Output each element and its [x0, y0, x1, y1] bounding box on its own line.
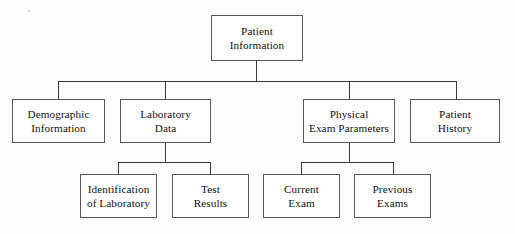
node-label-laboratory-data: Laboratory Data: [138, 107, 193, 135]
node-label-identification-of-laboratory: Identification of Laboratory: [85, 182, 152, 210]
node-label-patient-history: Patient History: [436, 107, 474, 135]
node-demographic-information[interactable]: Demographic Information: [12, 99, 105, 143]
node-current-exam[interactable]: Current Exam: [263, 174, 340, 218]
edge-drop-laboratory-data: [165, 81, 166, 99]
node-physical-exam-parameters[interactable]: Physical Exam Parameters: [303, 99, 395, 143]
node-label-physical-exam-parameters: Physical Exam Parameters: [307, 107, 391, 135]
edge-drop-test-results: [210, 162, 211, 174]
edge-drop-physical-exam-parameters: [349, 81, 350, 99]
scan-speck: [28, 10, 30, 12]
node-label-demographic-information: Demographic Information: [26, 107, 92, 135]
node-patient-information[interactable]: Patient Information: [211, 15, 303, 61]
edge-drop-identification-of-laboratory: [118, 162, 119, 174]
edge-physical-exam-parameters-bus: [301, 162, 394, 163]
edge-root-drop: [256, 61, 257, 82]
node-label-previous-exams: Previous Exams: [371, 182, 415, 210]
node-label-current-exam: Current Exam: [282, 182, 321, 210]
node-patient-history[interactable]: Patient History: [410, 99, 500, 143]
node-identification-of-laboratory[interactable]: Identification of Laboratory: [80, 174, 157, 218]
node-previous-exams[interactable]: Previous Exams: [354, 174, 431, 218]
node-label-test-results: Test Results: [192, 182, 230, 210]
edge-laboratory-data-drop: [165, 143, 166, 162]
edge-drop-previous-exams: [393, 162, 394, 174]
node-test-results[interactable]: Test Results: [172, 174, 249, 218]
edge-drop-patient-history: [456, 81, 457, 99]
edge-main-bus: [58, 81, 457, 82]
node-label-patient-information: Patient Information: [228, 24, 287, 52]
edge-physical-exam-parameters-drop: [349, 143, 350, 162]
edge-drop-current-exam: [301, 162, 302, 174]
node-laboratory-data[interactable]: Laboratory Data: [120, 99, 211, 143]
diagram-canvas: Patient Information Demographic Informat…: [0, 0, 515, 234]
edge-laboratory-data-bus: [118, 162, 211, 163]
edge-drop-demographic-information: [58, 81, 59, 99]
